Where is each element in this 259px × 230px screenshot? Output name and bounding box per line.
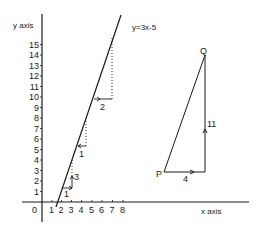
step-3-run-label: 2 [100, 102, 105, 112]
y-tick-label: 2 [34, 176, 39, 186]
y-tick-label: 5 [34, 145, 39, 155]
y-tick-label: 15 [29, 40, 39, 50]
point-p-label: P [156, 169, 162, 179]
y-tick-label: 1 [34, 187, 39, 197]
run-4-label: 4 [183, 174, 188, 184]
diagram-canvas: y axis x axis 0 1 2 3 4 5 6 7 8 [0, 0, 259, 230]
y-tick-label: 10 [29, 92, 39, 102]
x-tick-label: 5 [89, 205, 94, 215]
line-y-3x-5 [56, 15, 121, 207]
y-tick-label: 6 [34, 134, 39, 144]
x-tick-label: 6 [99, 205, 104, 215]
y-tick-label: 11 [30, 82, 39, 92]
x-tick-label: 3 [69, 205, 74, 215]
x-tick-label: 2 [59, 205, 64, 215]
x-tick-label: 7 [110, 205, 115, 215]
x-tick-labels: 1 2 3 4 5 6 7 8 [49, 205, 125, 215]
y-tick-label: 8 [34, 113, 39, 123]
point-q-label: Q [200, 46, 207, 56]
step-2-run-label: 1 [79, 149, 84, 159]
step-1-rise-label: 3 [74, 172, 79, 182]
step-1-run-label: 1 [64, 189, 69, 199]
y-tick-label: 13 [29, 61, 39, 71]
x-tick-label: 1 [49, 205, 54, 215]
x-tick-label: 4 [79, 205, 84, 215]
y-tick-label: 14 [29, 50, 39, 60]
rise-11-label: 11 [207, 119, 216, 129]
equation-label: y=3x-5 [132, 23, 157, 32]
y-tick-labels: 1 2 3 4 5 6 7 8 9 10 11 12 13 14 15 [29, 40, 39, 197]
y-tick-label: 4 [34, 155, 39, 165]
origin-label: 0 [32, 205, 37, 215]
y-tick-label: 12 [29, 71, 39, 81]
graph-svg: y axis x axis 0 1 2 3 4 5 6 7 8 [0, 0, 259, 230]
x-axis-label: x axis [201, 207, 221, 216]
y-axis-label: y axis [13, 21, 33, 30]
step-triangle-2 [78, 120, 86, 148]
x-tick-label: 8 [120, 205, 125, 215]
y-tick-label: 3 [34, 166, 39, 176]
y-tick-label: 9 [34, 103, 39, 113]
right-triangle-pq [164, 55, 207, 174]
y-tick-label: 7 [34, 124, 39, 134]
